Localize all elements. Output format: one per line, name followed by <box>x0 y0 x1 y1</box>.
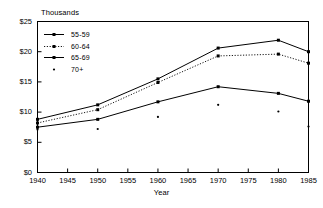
data-point-marker <box>36 121 39 124</box>
legend-item: 55-59 <box>44 29 90 41</box>
series-line <box>38 87 309 127</box>
data-point-marker <box>156 100 159 103</box>
line-chart: Thousands $0$5$10$15$20$25 1940194519501… <box>0 0 323 208</box>
data-point-marker <box>277 110 279 112</box>
legend-key-icon <box>44 42 64 51</box>
legend-item: 65-69 <box>44 52 90 64</box>
data-point-marker <box>36 129 38 131</box>
data-point-marker <box>217 104 219 106</box>
legend-item: 60-64 <box>44 41 90 53</box>
legend-key-icon <box>44 30 64 39</box>
data-point-marker <box>96 103 99 106</box>
data-point-marker <box>217 54 220 57</box>
legend-key-icon <box>44 53 64 62</box>
data-point-marker <box>156 81 159 84</box>
chart-legend: 55-5960-6465-6970+ <box>44 29 90 75</box>
data-point-marker <box>96 108 99 111</box>
data-point-marker <box>307 50 310 53</box>
legend-key-icon <box>44 65 64 74</box>
data-point-marker <box>217 85 220 88</box>
data-point-marker <box>307 125 309 127</box>
data-point-marker <box>36 126 39 129</box>
legend-label: 60-64 <box>71 43 90 50</box>
data-point-marker <box>156 77 159 80</box>
data-point-marker <box>217 47 220 50</box>
legend-label: 55-59 <box>71 31 90 38</box>
legend-label: 65-69 <box>71 54 90 61</box>
x-axis-title: Year <box>0 188 323 197</box>
data-point-marker <box>157 116 159 118</box>
data-point-marker <box>277 53 280 56</box>
legend-item: 70+ <box>44 64 90 76</box>
legend-label: 70+ <box>71 66 83 73</box>
data-point-marker <box>307 100 310 103</box>
data-point-marker <box>277 39 280 42</box>
data-point-marker <box>277 92 280 95</box>
data-point-marker <box>97 128 99 130</box>
data-point-marker <box>36 118 39 121</box>
data-point-marker <box>96 118 99 121</box>
data-point-marker <box>307 62 310 65</box>
